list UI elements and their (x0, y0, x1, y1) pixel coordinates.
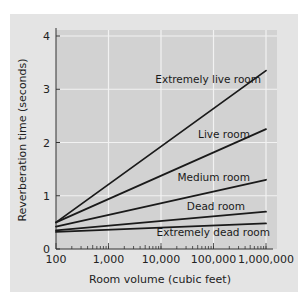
x-axis-title: Room volume (cubic feet) (89, 273, 231, 286)
x-tick-label: 1,000,000 (238, 253, 294, 266)
y-tick-label: 4 (43, 30, 50, 43)
y-tick-label: 2 (43, 137, 50, 150)
series-label-4: Extremely dead room (157, 226, 270, 238)
series-label-2: Medium room (178, 171, 251, 183)
y-tick-label: 1 (43, 190, 50, 203)
x-tick-label: 10,000 (142, 253, 181, 266)
series-label-1: Live room (198, 128, 250, 140)
series-label-0: Extremely live room (155, 73, 261, 85)
x-tick-label: 100,000 (191, 253, 237, 266)
x-tick-label: 1,000 (93, 253, 125, 266)
y-tick-label: 3 (43, 83, 50, 96)
y-axis-title: Reverberation time (seconds) (16, 58, 29, 221)
reverberation-chart: 012341001,00010,000100,0001,000,000 Extr… (0, 0, 308, 303)
x-tick-label: 100 (46, 253, 67, 266)
series-label-3: Dead room (187, 200, 245, 212)
